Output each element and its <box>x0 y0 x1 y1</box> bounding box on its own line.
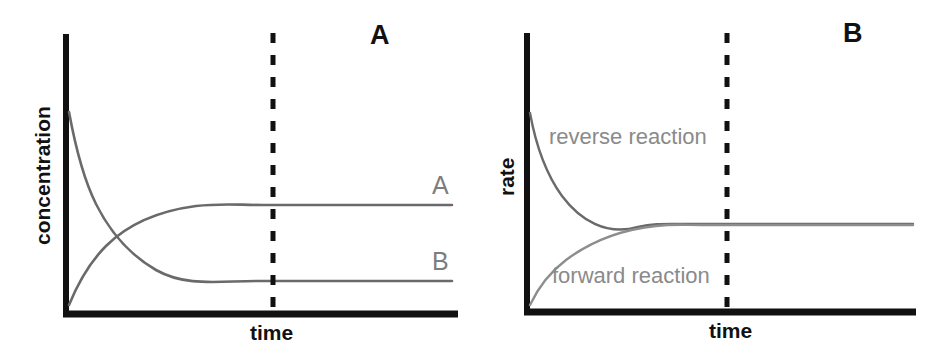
panel-b-plot <box>466 0 931 359</box>
panel-a: A time concentration A B <box>0 0 466 359</box>
curve-label-a: A <box>432 173 449 198</box>
x-axis-label-a: time <box>250 322 293 343</box>
annotation-forward-reaction: forward reaction <box>552 265 710 287</box>
panel-letter-b: B <box>843 20 863 47</box>
y-axis-label-b: rate <box>496 157 517 196</box>
x-axis-label-b: time <box>709 320 752 341</box>
panel-letter-a: A <box>370 22 390 49</box>
panel-b: B time rate reverse reaction forward rea… <box>466 0 931 359</box>
curve-b-concentration <box>69 204 452 305</box>
panel-a-plot <box>0 0 466 359</box>
equilibrium-figure: A time concentration A B B time rate rev… <box>0 0 931 359</box>
curve-label-b: B <box>432 249 449 274</box>
annotation-reverse-reaction: reverse reaction <box>549 126 707 148</box>
curve-a-concentration <box>69 112 452 282</box>
y-axis-label-a: concentration <box>32 106 53 245</box>
